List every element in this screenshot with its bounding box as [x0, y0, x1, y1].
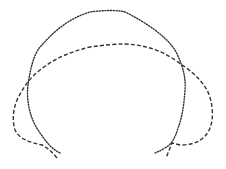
outline-comparison-figure — [0, 0, 226, 169]
